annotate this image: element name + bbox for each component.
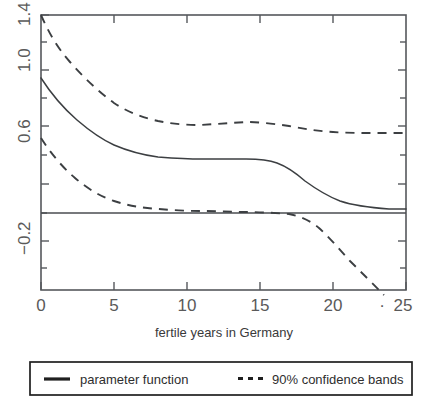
- y-tick-label-neg0_2: −0.2: [15, 221, 34, 255]
- x-axis-tickmarks: [41, 282, 406, 290]
- x-tick-prefix-mark: ·: [379, 296, 385, 315]
- y-tick-label-1_0: 1.0: [15, 48, 34, 72]
- y-axis-tick-labels: 1.4 1.0 0.6 −0.2: [15, 2, 34, 255]
- x-tick-label-0: 0: [36, 296, 45, 315]
- chart-figure: 1.4 1.0 0.6 −0.2: [0, 0, 441, 403]
- x-tick-label-15: 15: [251, 296, 270, 315]
- legend-dotted-line-icon: [238, 377, 263, 380]
- y-tick-label-1_4: 1.4: [15, 2, 34, 26]
- legend-label-parameter-function: parameter function: [80, 372, 188, 387]
- lower-confidence-band: [41, 138, 384, 295]
- legend-entry-confidence-bands: 90% confidence bands: [238, 372, 404, 387]
- x-tick-label-5: 5: [109, 296, 118, 315]
- x-axis-top-tickmarks: [114, 15, 333, 23]
- x-axis-tick-labels: 0 5 10 15 20 · 25: [36, 296, 412, 315]
- legend-label-confidence-bands: 90% confidence bands: [272, 372, 404, 387]
- x-tick-label-20: 20: [324, 296, 343, 315]
- chart-svg: 1.4 1.0 0.6 −0.2: [0, 0, 441, 403]
- x-axis-title: fertile years in Germany: [155, 325, 293, 340]
- legend-entry-parameter-function: parameter function: [44, 372, 188, 387]
- parameter-function-curve: [41, 78, 406, 209]
- x-tick-label-10: 10: [178, 296, 197, 315]
- x-tick-label-25: 25: [394, 296, 413, 315]
- plot-frame: [41, 15, 406, 290]
- chart-legend: parameter function 90% confidence bands: [30, 362, 412, 395]
- y-axis-right-tickmarks: [398, 42, 406, 268]
- upper-confidence-band: [41, 15, 406, 133]
- y-tick-label-0_6: 0.6: [15, 119, 34, 143]
